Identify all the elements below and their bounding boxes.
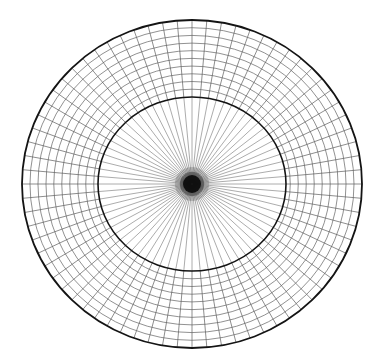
polar-grid-canvas xyxy=(0,0,382,364)
center-core-group xyxy=(175,167,209,201)
core-blob xyxy=(183,175,201,193)
polar-grid-figure xyxy=(0,0,382,364)
